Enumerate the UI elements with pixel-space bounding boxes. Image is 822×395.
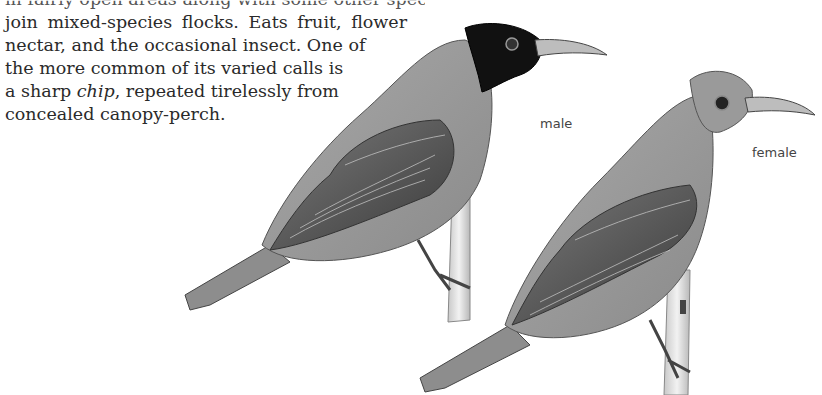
male-label: male <box>540 116 572 131</box>
female-label: female <box>752 145 797 160</box>
bird-illustrations <box>0 0 822 395</box>
